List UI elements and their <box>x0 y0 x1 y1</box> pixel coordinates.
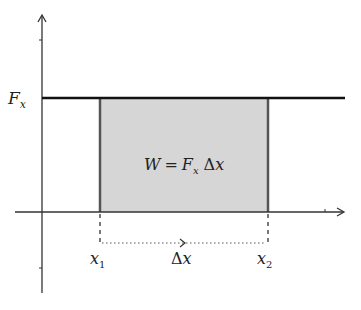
x2-label: x2 <box>257 249 272 270</box>
diagram-canvas: Fx W=FxΔx x1 Δx x2 <box>0 0 361 310</box>
x1-label: x1 <box>90 249 105 270</box>
delta-x-label: Δx <box>171 249 192 268</box>
force-label: Fx <box>7 88 27 111</box>
work-formula: W=FxΔx <box>144 155 224 176</box>
work-diagram: Fx W=FxΔx x1 Δx x2 <box>0 0 361 310</box>
